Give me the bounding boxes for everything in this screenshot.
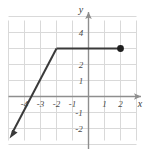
x-tick-labels: -4 -3 -2 -1 1 2 [21,99,124,109]
grid-lines [9,17,137,145]
x-tick--2: -2 [53,99,61,109]
y-axis-label: y [78,4,84,15]
graph-figure: -4 -3 -2 -1 1 2 4 2 1 -1 -2 y x [0,0,151,153]
y-tick-4: 4 [79,28,84,38]
y-tick-1: 1 [79,76,84,86]
x-axis-label: x [137,98,143,109]
x-tick--3: -3 [37,99,45,109]
endpoint-filled-dot [117,45,124,52]
x-tick-2: 2 [118,99,123,109]
x-tick-1: 1 [102,99,107,109]
y-tick-2: 2 [79,60,84,70]
curve-segment-slanted [13,49,57,133]
axis-names: y x [78,4,143,109]
y-tick--1: -1 [75,108,83,118]
ray-arrowhead [10,130,18,139]
y-tick--2: -2 [75,124,83,134]
coordinate-plane-svg: -4 -3 -2 -1 1 2 4 2 1 -1 -2 y x [0,0,151,153]
axis-arrowheads [85,12,141,100]
